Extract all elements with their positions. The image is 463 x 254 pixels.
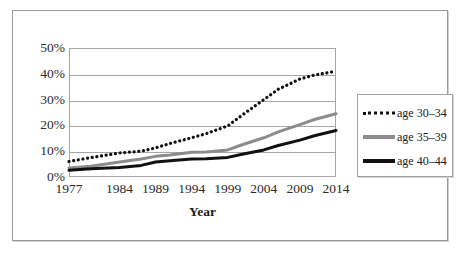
- y-axis-tick-label: 30%: [21, 93, 65, 107]
- y-axis-tick-label: 40%: [21, 67, 65, 81]
- y-axis-tick-label: 10%: [21, 144, 65, 158]
- legend-item-label: age 30–34: [395, 106, 447, 121]
- x-axis-tick-label: 1977: [46, 182, 92, 196]
- solid-gray-line-swatch: [363, 131, 395, 143]
- chart-screenshot: 50%40%30%20%10%0% 1977198419891994199920…: [0, 0, 463, 254]
- legend-item-age-30-34[interactable]: age 30–34: [363, 103, 451, 123]
- series-line-age-30-34: [69, 71, 336, 161]
- figure-frame: 50%40%30%20%10%0% 1977198419891994199920…: [12, 10, 448, 241]
- x-axis-tick-labels: 19771984198919941999200420092014: [69, 182, 336, 202]
- y-axis-tick-label: 20%: [21, 118, 65, 132]
- chart-legend: age 30–34age 35–39age 40–44: [357, 94, 453, 177]
- x-axis-title: Year: [69, 204, 336, 220]
- legend-item-age-40-44[interactable]: age 40–44: [363, 151, 451, 171]
- legend-item-age-35-39[interactable]: age 35–39: [363, 127, 451, 147]
- legend-item-label: age 35–39: [395, 130, 447, 145]
- y-axis-tick-label: 50%: [21, 41, 65, 55]
- solid-black-line-swatch: [363, 155, 395, 167]
- dotted-black-line-swatch: [363, 107, 395, 119]
- series-lines: [69, 48, 336, 177]
- legend-item-label: age 40–44: [395, 154, 447, 169]
- x-axis-tick-label: 2014: [313, 182, 359, 196]
